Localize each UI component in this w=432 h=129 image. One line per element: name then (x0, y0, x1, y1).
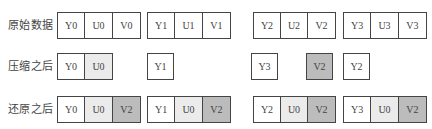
pixel-group-restored-1: Y1 U0 V2 (147, 96, 231, 123)
cell-u: U0 (371, 97, 398, 122)
cell-u: U0 (85, 13, 112, 38)
cell-v: V2 (308, 13, 335, 38)
cell-y-compressed-2: Y2 (343, 53, 370, 80)
pixel-group-original-1: Y1 U1 V1 (147, 12, 231, 39)
cell-v: V1 (203, 13, 230, 38)
cell-u: U0 (175, 97, 202, 122)
pixel-group-original-2: Y2 U2 V2 (253, 12, 336, 39)
pixel-group-restored-3: Y3 U0 V2 (343, 96, 427, 123)
cell-y: Y3 (344, 13, 371, 38)
cell-u: U1 (175, 13, 202, 38)
cell-v: V3 (399, 13, 426, 38)
cell-v: V2 (203, 97, 230, 122)
cell-y: Y0 (58, 97, 85, 122)
cell-v: V2 (399, 97, 426, 122)
row-label-compressed: 压缩之后 (8, 53, 54, 79)
cell-y: Y0 (58, 54, 85, 79)
cell-y-compressed-1: Y1 (147, 53, 174, 80)
cell-u-shared: U0 (85, 54, 112, 79)
cell-y: Y1 (148, 13, 175, 38)
cell-u: U0 (85, 97, 112, 122)
cell-y-compressed-3: Y3 (251, 53, 278, 80)
cell-v: V0 (113, 13, 140, 38)
row-label-restored: 还原之后 (8, 96, 54, 122)
cell-y: Y3 (344, 97, 371, 122)
cell-y: Y1 (148, 97, 175, 122)
pixel-group-compressed-0: Y0 U0 (57, 53, 113, 80)
row-label-original: 原始数据 (8, 12, 54, 38)
pixel-group-original-0: Y0 U0 V0 (57, 12, 141, 39)
cell-y: Y2 (254, 97, 281, 122)
cell-v-shared: V2 (306, 53, 333, 80)
cell-y: Y2 (254, 13, 281, 38)
cell-u: U3 (371, 13, 398, 38)
pixel-group-restored-2: Y2 U0 V2 (253, 96, 336, 123)
cell-y: Y0 (58, 13, 85, 38)
cell-v: V2 (113, 97, 140, 122)
pixel-group-restored-0: Y0 U0 V2 (57, 96, 141, 123)
cell-v: V2 (308, 97, 335, 122)
cell-u: U0 (281, 97, 308, 122)
cell-u: U2 (281, 13, 308, 38)
pixel-group-original-3: Y3 U3 V3 (343, 12, 427, 39)
